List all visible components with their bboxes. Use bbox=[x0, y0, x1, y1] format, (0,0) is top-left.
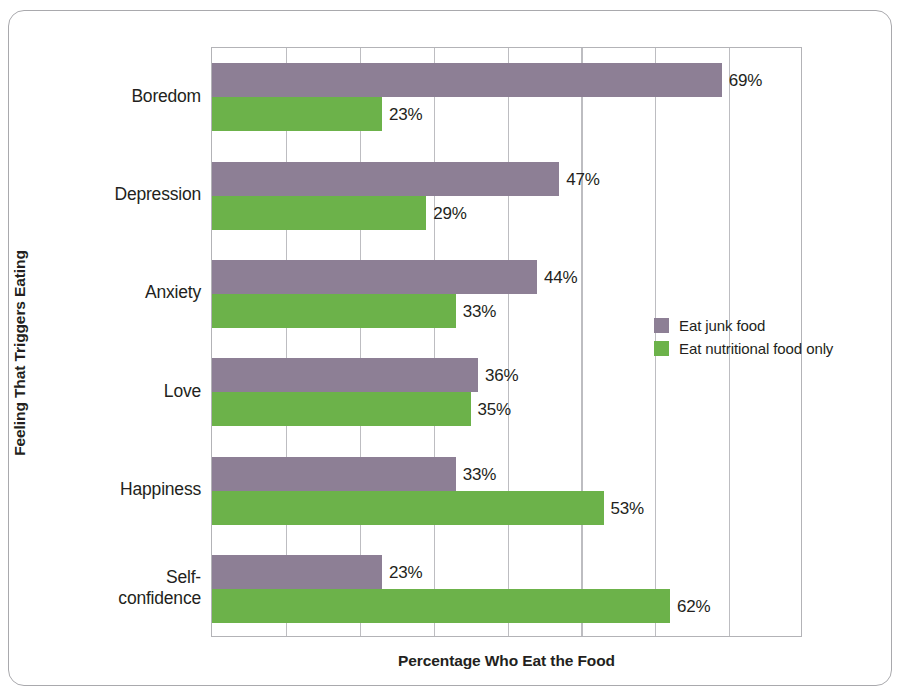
legend-swatch-junk-food-icon bbox=[654, 318, 669, 333]
bar-depression-junk-food bbox=[212, 162, 559, 196]
bar-boredom-junk-food bbox=[212, 63, 722, 97]
bar-self-confidence-junk-food bbox=[212, 555, 382, 589]
bar-value-label: 62% bbox=[677, 598, 710, 615]
category-label-love: Love bbox=[49, 381, 201, 402]
bar-value-label: 35% bbox=[478, 401, 511, 418]
bar-value-label: 44% bbox=[544, 269, 577, 286]
bar-love-junk-food bbox=[212, 358, 478, 392]
bar-depression-nutritional-food bbox=[212, 196, 426, 230]
category-axis: BoredomDepressionAnxietyLoveHappinessSel… bbox=[49, 47, 201, 637]
gridline-10 bbox=[286, 48, 287, 636]
category-label-depression: Depression bbox=[49, 184, 201, 205]
bar-anxiety-junk-food bbox=[212, 260, 537, 294]
category-label-self-confidence: Self-confidence bbox=[49, 567, 201, 609]
bar-anxiety-nutritional-food bbox=[212, 294, 456, 328]
gridline-40 bbox=[508, 48, 509, 636]
bar-boredom-nutritional-food bbox=[212, 97, 382, 131]
bar-value-label: 47% bbox=[566, 171, 599, 188]
gridline-50 bbox=[581, 48, 582, 636]
figure-frame: Feeling That Triggers Eating BoredomDepr… bbox=[8, 10, 892, 686]
bar-value-label: 36% bbox=[485, 367, 518, 384]
y-axis-title: Feeling That Triggers Eating bbox=[9, 58, 31, 648]
bar-value-label: 33% bbox=[463, 303, 496, 320]
bar-value-label: 29% bbox=[433, 205, 466, 222]
bar-value-label: 23% bbox=[389, 106, 422, 123]
legend-swatch-nutritional-food-icon bbox=[654, 341, 669, 356]
bar-happiness-nutritional-food bbox=[212, 491, 604, 525]
bar-value-label: 33% bbox=[463, 466, 496, 483]
category-label-anxiety: Anxiety bbox=[49, 282, 201, 303]
legend-item-junk-food: Eat junk food bbox=[654, 314, 894, 337]
legend-item-nutritional-food: Eat nutritional food only bbox=[654, 337, 894, 360]
gridline-30 bbox=[434, 48, 435, 636]
legend-label: Eat nutritional food only bbox=[679, 340, 833, 357]
bar-value-label: 23% bbox=[389, 564, 422, 581]
legend-label: Eat junk food bbox=[679, 317, 765, 334]
gridline-20 bbox=[360, 48, 361, 636]
chart-legend: Eat junk foodEat nutritional food only bbox=[654, 314, 894, 360]
bar-value-label: 53% bbox=[611, 500, 644, 517]
x-axis-title: Percentage Who Eat the Food bbox=[211, 652, 802, 670]
bar-happiness-junk-food bbox=[212, 457, 456, 491]
bar-value-label: 69% bbox=[729, 72, 762, 89]
bar-love-nutritional-food bbox=[212, 392, 471, 426]
bar-self-confidence-nutritional-food bbox=[212, 589, 670, 623]
category-label-happiness: Happiness bbox=[49, 479, 201, 500]
category-label-boredom: Boredom bbox=[49, 86, 201, 107]
